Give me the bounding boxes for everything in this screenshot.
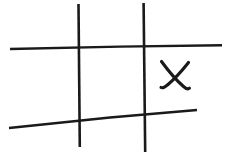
tic-tac-toe-canvas xyxy=(0,0,229,158)
canvas-background xyxy=(0,0,229,158)
vertical-line-left xyxy=(79,4,80,147)
vertical-line-right xyxy=(144,3,146,152)
tic-tac-toe-board xyxy=(0,0,229,158)
